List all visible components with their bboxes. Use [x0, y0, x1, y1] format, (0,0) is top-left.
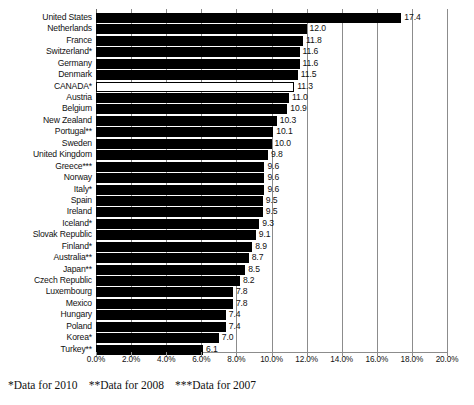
plot-area: 17.412.011.811.611.611.511.311.010.910.3… — [96, 9, 447, 352]
value-tick-mark — [342, 352, 343, 356]
footnote: *Data for 2010**Data for 2008***Data for… — [8, 379, 256, 391]
value-tick-mark — [412, 352, 413, 356]
value-tick-mark — [131, 352, 132, 356]
value-tick-mark — [272, 352, 273, 356]
footnote-2010: *Data for 2010 — [8, 379, 78, 391]
bar — [96, 345, 203, 355]
category-axis-labels: United StatesNetherlandsFranceSwitzerlan… — [0, 9, 92, 352]
value-tick-mark — [307, 352, 308, 356]
value-tick-mark — [447, 352, 448, 356]
footnote-2008: **Data for 2008 — [89, 379, 164, 391]
gridline — [447, 9, 448, 352]
value-tick-mark — [377, 352, 378, 356]
bar-chart: United StatesNetherlandsFranceSwitzerlan… — [0, 0, 474, 405]
value-tick-mark — [166, 352, 167, 356]
footnote-2007: ***Data for 2007 — [175, 379, 256, 391]
value-tick-mark — [96, 352, 97, 356]
value-tick-mark — [236, 352, 237, 356]
category-label: Turkey** — [0, 341, 92, 360]
value-tick-mark — [201, 352, 202, 356]
scan-artifact-strip — [0, 0, 474, 8]
